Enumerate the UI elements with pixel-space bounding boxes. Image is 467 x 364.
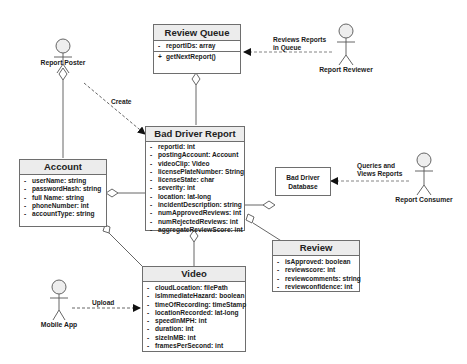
attribute-row: -reportIDs: array: [154, 42, 240, 50]
bad-driver-database[interactable]: Bad DriverDatabase: [275, 167, 331, 196]
attribute-row: -cloudLocation: filePath: [143, 284, 245, 292]
class-title: Review: [273, 241, 359, 256]
attribute-row: -aggregateReviewScore: int: [146, 226, 244, 234]
class-title: Video: [143, 267, 245, 282]
attributes-section: -userName: string -passwordHash: string …: [20, 175, 106, 220]
attribute-row: -duration: int: [143, 325, 245, 333]
edge-label-line: in Queue: [273, 44, 326, 52]
attributes-section: -reportid: int -postingAccount: Account …: [146, 142, 244, 235]
methods-section: +getNextReport(): [154, 52, 240, 62]
actor-report-consumer[interactable]: Report Consumer: [384, 196, 464, 203]
aggregation-report-review: [246, 214, 283, 242]
aggregation-poster-account: [59, 68, 67, 158]
database-label-line1: Bad Driver: [286, 173, 319, 182]
database-label-line2: Database: [286, 182, 319, 191]
attributes-section: -cloudLocation: filePath -isImmediateHaz…: [143, 282, 245, 352]
attribute-row: -reportid: int: [146, 143, 244, 151]
class-title: Review Queue: [154, 25, 240, 41]
attribute-row: -incidentDescription: string: [146, 201, 244, 209]
actor-mobile-app-icon: [50, 280, 68, 320]
attribute-row: -postingAccount: Account: [146, 151, 244, 159]
edge-label-create: Create: [111, 98, 132, 106]
class-video[interactable]: Video -cloudLocation: filePath -isImmedi…: [142, 266, 246, 352]
attribute-row: -timeOfRecording: timeStamp: [143, 301, 245, 309]
aggregation-report-database: [244, 201, 275, 209]
attribute-row: -location: lat-long: [146, 193, 244, 201]
attribute-row: -full Name: string: [20, 194, 106, 202]
attribute-row: -severity: int: [146, 184, 244, 192]
edge-label-line: Queries and: [357, 162, 402, 170]
attribute-row: -accountType: string: [20, 210, 106, 218]
actor-report-reviewer-icon: [337, 24, 355, 65]
attribute-row: -reviewconfidence: int: [273, 283, 359, 291]
attribute-row: -licenseState: char: [146, 176, 244, 184]
attribute-row: -isImmediateHazard: boolean: [143, 292, 245, 300]
class-review[interactable]: Review -isApproved: boolean -reviewscore…: [272, 240, 360, 292]
attribute-row: -passwordHash: string: [20, 185, 106, 193]
aggregation-report-video: [190, 230, 198, 266]
actor-label: Report Consumer: [384, 196, 464, 203]
attribute-row: -locationRecorded: lat-long: [143, 309, 245, 317]
actor-mobile-app[interactable]: Mobile App: [29, 321, 89, 328]
attribute-row: -sizeInMB: int: [143, 334, 245, 342]
attribute-row: -speedInMPH: int: [143, 317, 245, 325]
attribute-row: -reviewcomments: string: [273, 275, 359, 283]
class-account[interactable]: Account -userName: string -passwordHash:…: [19, 159, 107, 227]
class-title: Bad Driver Report: [146, 127, 244, 142]
aggregation-queue-report: [192, 73, 200, 125]
actor-label: Mobile App: [29, 321, 89, 328]
attribute-row: -videoClip: Video: [146, 160, 244, 168]
attribute-row: -reviewscore: int: [273, 266, 359, 274]
actor-label: Report Reviewer: [310, 66, 382, 73]
attribute-row: -numRejectedReviews: int: [146, 218, 244, 226]
attribute-row: -userName: string: [20, 177, 106, 185]
attribute-row: -numApprovedReviews: int: [146, 209, 244, 217]
class-bad-driver-report[interactable]: Bad Driver Report -reportid: int -postin…: [145, 126, 245, 231]
actor-report-consumer-icon: [415, 153, 433, 195]
attributes-section: -reportIDs: array: [154, 41, 240, 52]
attribute-row: -isApproved: boolean: [273, 258, 359, 266]
aggregation-account-report: [106, 189, 145, 197]
class-review-queue[interactable]: Review Queue -reportIDs: array +getNextR…: [153, 24, 241, 74]
aggregation-account-video: [103, 225, 142, 266]
method-row: +getNextReport(): [154, 53, 240, 61]
edge-label-upload: Upload: [92, 299, 114, 307]
attribute-row: -phoneNumber: int: [20, 202, 106, 210]
attribute-row: -framesPerSecond: int: [143, 342, 245, 350]
attributes-section: -isApproved: boolean -reviewscore: int -…: [273, 256, 359, 293]
actor-label: Report Poster: [33, 59, 93, 66]
edge-label-queries: Queries and Views Reports: [357, 162, 402, 178]
create-arrow: [84, 83, 145, 134]
edge-label-line: Views Reports: [357, 170, 402, 178]
class-title: Account: [20, 160, 106, 175]
edge-label-reviews: Reviews Reports in Queue: [273, 36, 326, 52]
actor-report-reviewer[interactable]: Report Reviewer: [310, 66, 382, 73]
attribute-row: -licensePlateNumber: String: [146, 168, 244, 176]
edge-label-line: Reviews Reports: [273, 36, 326, 44]
